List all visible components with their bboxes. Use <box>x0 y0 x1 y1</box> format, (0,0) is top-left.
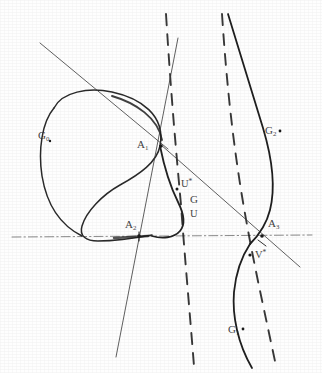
label-g0: G0 <box>38 130 49 142</box>
asymptote-left <box>166 14 194 366</box>
point-U-star <box>176 188 179 191</box>
label-g: G <box>190 194 198 205</box>
curve-g1 <box>234 244 252 368</box>
asymptote-right <box>222 14 276 366</box>
point-A1 <box>159 144 162 147</box>
label-a3: A3 <box>268 218 279 230</box>
tick-A3 <box>258 240 266 246</box>
label-u: U <box>190 209 198 220</box>
curve-g0-shoulder <box>112 96 162 140</box>
label-a1: A1 <box>137 139 148 151</box>
label-g2: G2 <box>265 125 276 137</box>
horizontal-axis <box>12 235 312 237</box>
point-G1-marker <box>242 328 245 331</box>
curve-g0-lower-arc <box>41 108 83 236</box>
steep-line-through-A2 <box>116 38 178 357</box>
label-a2: A2 <box>125 219 136 231</box>
label-u-star: U* <box>181 178 192 189</box>
point-G2-marker <box>279 130 282 133</box>
secant-A1-A3 <box>160 144 300 267</box>
point-A3 <box>260 234 264 238</box>
label-g1: G1 <box>228 324 239 336</box>
figure-canvas: G0 G2 G1 G A1 A2 A3 U U* V* <box>0 0 322 373</box>
point-V-star <box>248 253 251 256</box>
tangent-through-A1 <box>40 43 168 149</box>
label-v-star: V* <box>255 249 266 260</box>
diagram-svg <box>0 0 322 373</box>
curve-g <box>152 146 184 238</box>
